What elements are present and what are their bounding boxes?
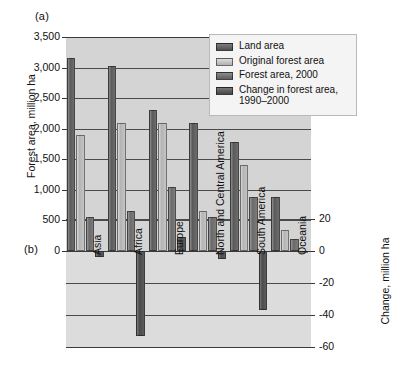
change-in-forest-area-swatch [216, 87, 233, 95]
bar [281, 230, 290, 251]
right-tick-mark [311, 219, 315, 220]
gridline-right-neg40 [66, 315, 311, 316]
left-tick-label: 500 [8, 213, 60, 225]
bar [271, 197, 280, 251]
legend-item: Land area [216, 40, 350, 52]
gridline-right-neg20 [66, 283, 311, 284]
right-tick-mark [311, 315, 315, 316]
bar [199, 211, 208, 251]
category-label: North and Central America [214, 131, 226, 255]
bar [240, 165, 249, 251]
legend-item: Forest area, 2000 [216, 69, 350, 81]
category-label: Europe [173, 221, 185, 255]
bar [136, 251, 145, 336]
left-tick-mark [62, 190, 66, 191]
legend-item-label: Change in forest area, 1990–2000 [239, 84, 350, 107]
right-tick-label: 20 [319, 212, 359, 224]
right-tick-mark [311, 347, 315, 348]
left-tick-label: 1,500 [8, 152, 60, 164]
legend-item: Original forest area [216, 55, 350, 67]
bar [117, 123, 126, 251]
bar [189, 123, 198, 251]
category-label: South America [255, 187, 267, 255]
category-label: Africa [132, 228, 144, 255]
right-axis-title: Change, million ha [379, 206, 391, 356]
left-tick-mark [62, 37, 66, 38]
legend: Land areaOriginal forest areaForest area… [209, 34, 357, 116]
land-area-swatch [216, 43, 233, 51]
right-tick-label: -60 [319, 340, 359, 352]
right-tick-mark [311, 283, 315, 284]
bar [67, 58, 76, 251]
left-tick-mark [62, 129, 66, 130]
category-label: Asia [91, 235, 103, 255]
bar [259, 251, 268, 310]
left-tick-label: 0 [8, 244, 60, 256]
left-tick-mark [62, 68, 66, 69]
left-tick-label: 1,000 [8, 183, 60, 195]
figure-root: (a) (b) Forest area, million ha Change, … [0, 0, 395, 366]
bar [230, 142, 239, 251]
left-tick-label: 2,000 [8, 122, 60, 134]
right-tick-label: 0 [319, 244, 359, 256]
left-tick-mark [62, 220, 66, 221]
legend-item-label: Forest area, 2000 [239, 69, 318, 81]
legend-item-label: Land area [239, 40, 284, 52]
category-label: Oceania [296, 216, 308, 255]
bar [76, 135, 85, 251]
left-tick-mark [62, 251, 66, 252]
forest-area-2000-swatch [216, 72, 233, 80]
panel-a-label: (a) [35, 10, 49, 22]
original-forest-area-swatch [216, 58, 233, 66]
legend-item: Change in forest area, 1990–2000 [216, 84, 350, 107]
left-tick-mark [62, 159, 66, 160]
right-tick-mark [311, 251, 315, 252]
lower-panel-background [66, 251, 311, 347]
bar [108, 66, 117, 251]
right-tick-label: -40 [319, 308, 359, 320]
bar [158, 123, 167, 251]
left-tick-mark [62, 98, 66, 99]
legend-item-label: Original forest area [239, 55, 324, 67]
left-tick-label: 2,500 [8, 91, 60, 103]
left-tick-label: 3,500 [8, 30, 60, 42]
gridline-right-neg60 [66, 347, 311, 348]
bar [149, 110, 158, 251]
right-tick-label: -20 [319, 276, 359, 288]
left-tick-label: 3,000 [8, 61, 60, 73]
